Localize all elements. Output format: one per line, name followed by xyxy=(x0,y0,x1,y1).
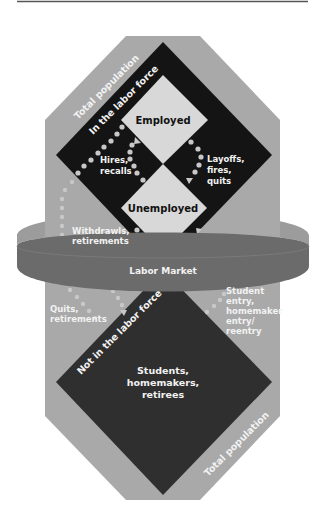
svg-text:homemakers,: homemakers, xyxy=(127,377,199,388)
hires-label: Hires, recalls xyxy=(100,155,132,176)
svg-text:Hires,: Hires, xyxy=(100,155,128,165)
svg-text:Students,: Students, xyxy=(137,365,189,376)
svg-text:entry,: entry, xyxy=(226,296,254,306)
svg-text:retirees: retirees xyxy=(142,389,184,400)
svg-text:retirements: retirements xyxy=(72,236,129,246)
labor-market-label: Labor Market xyxy=(129,266,197,276)
svg-text:reentry: reentry xyxy=(226,326,262,336)
svg-text:recalls: recalls xyxy=(100,166,132,176)
svg-text:Student: Student xyxy=(226,286,264,296)
svg-text:Quits,: Quits, xyxy=(50,304,79,314)
labor-market-diagram: Total population In the labor force Empl… xyxy=(0,0,323,523)
svg-text:entry/: entry/ xyxy=(226,316,256,326)
unemployed-label: Unemployed xyxy=(128,203,198,214)
svg-text:retirements: retirements xyxy=(50,314,107,324)
employed-label: Employed xyxy=(135,115,190,126)
svg-text:Layoffs,: Layoffs, xyxy=(207,154,244,164)
svg-text:homemaker: homemaker xyxy=(226,306,283,316)
svg-text:quits: quits xyxy=(207,176,231,186)
withdrawals-label: Withdrawls, retirements xyxy=(72,226,129,246)
labor-market-band xyxy=(17,233,309,292)
svg-text:Withdrawls,: Withdrawls, xyxy=(72,226,129,236)
svg-text:fires,: fires, xyxy=(207,165,232,175)
